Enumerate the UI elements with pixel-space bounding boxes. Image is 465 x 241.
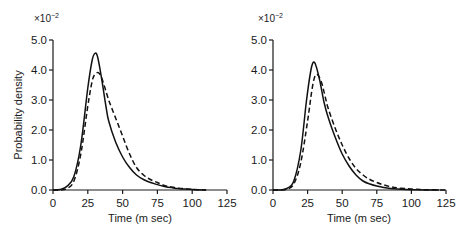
dashed-series-line xyxy=(273,74,446,190)
y-axis: 0.01.02.03.04.05.0 xyxy=(31,34,53,196)
y-tick-label: 2.0 xyxy=(31,124,47,136)
x-tick-label: 0 xyxy=(270,197,276,209)
y-multiplier-label: ×10−2 xyxy=(258,12,283,24)
y-tick-label: 0.0 xyxy=(31,184,47,196)
y-tick-label: 1.0 xyxy=(251,154,267,166)
y-tick-label: 5.0 xyxy=(251,34,267,46)
x-tick-label: 100 xyxy=(402,197,421,209)
left-panel: ×10−2 Probability density 0.01.02.03.04.… xyxy=(12,12,237,224)
y-tick-label: 1.0 xyxy=(31,154,47,166)
y-tick-label: 0.0 xyxy=(251,184,267,196)
x-axis: 0255075100125 xyxy=(50,190,237,209)
dashed-series-line xyxy=(53,73,206,190)
plot-area xyxy=(273,62,446,190)
x-tick-label: 100 xyxy=(183,197,202,209)
y-tick-label: 3.0 xyxy=(251,94,267,106)
solid-series-line xyxy=(273,62,439,190)
x-tick-label: 25 xyxy=(81,197,94,209)
x-axis-label: Time (m sec) xyxy=(327,212,391,224)
x-tick-label: 25 xyxy=(301,197,314,209)
figure: ×10−2 Probability density 0.01.02.03.04.… xyxy=(0,0,465,241)
x-tick-label: 125 xyxy=(217,197,236,209)
x-axis: 0255075100125 xyxy=(270,190,456,209)
y-tick-label: 4.0 xyxy=(31,64,47,76)
y-axis-label: Probability density xyxy=(12,70,24,160)
x-axis-label: Time (m sec) xyxy=(108,212,172,224)
y-tick-label: 3.0 xyxy=(31,94,47,106)
y-multiplier-label: ×10−2 xyxy=(34,12,59,24)
x-tick-label: 75 xyxy=(151,197,164,209)
x-tick-label: 125 xyxy=(436,197,455,209)
y-tick-label: 2.0 xyxy=(251,124,267,136)
plot-area xyxy=(53,53,206,190)
right-panel: ×10−2 0.01.02.03.04.05.0 0255075100125 T… xyxy=(251,12,456,224)
y-axis: 0.01.02.03.04.05.0 xyxy=(251,34,273,196)
x-tick-label: 0 xyxy=(50,197,56,209)
y-tick-label: 4.0 xyxy=(251,64,267,76)
x-tick-label: 50 xyxy=(336,197,349,209)
y-tick-label: 5.0 xyxy=(31,34,47,46)
x-tick-label: 50 xyxy=(116,197,129,209)
solid-series-line xyxy=(53,53,206,190)
x-tick-label: 75 xyxy=(370,197,383,209)
